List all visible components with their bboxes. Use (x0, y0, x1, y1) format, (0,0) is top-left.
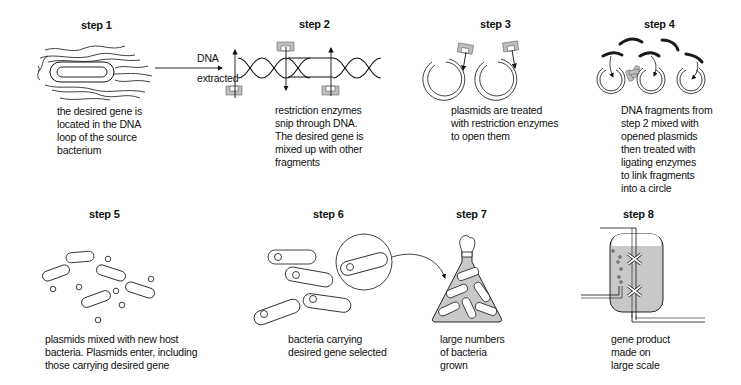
step-1-caption: the desired gene islocated in the DNA lo… (57, 105, 142, 157)
step-6-title: step 6 (313, 208, 344, 220)
step-5-caption: plasmids mixed with new hostbacteria. Pl… (45, 333, 197, 372)
step-7-title: step 7 (456, 208, 487, 220)
fermenter-icon (581, 228, 705, 322)
step-3-caption: plasmids are treatedwith restriction enz… (451, 104, 558, 143)
dna-extracted-label-line1: DNA (197, 52, 219, 64)
step-2-caption: restriction enzymessnip through DNA. The… (275, 104, 363, 169)
step-5-title: step 5 (89, 208, 120, 220)
step-6-caption: bacteria carryingdesired gene selected (288, 333, 387, 359)
host-bacteria-icon (41, 251, 156, 323)
opened-plasmid-icons (423, 41, 519, 100)
selected-bacteria-icon (252, 234, 445, 327)
restriction-enzyme-icons (226, 42, 339, 95)
step-8-title: step 8 (623, 208, 654, 220)
ligation-icon (597, 39, 705, 93)
step-2-title: step 2 (299, 18, 330, 30)
step-4-title: step 4 (644, 18, 675, 30)
step-1-title: step 1 (81, 19, 112, 31)
culture-flask-icon (432, 236, 501, 322)
step-4-caption: DNA fragments fromstep 2 mixed with open… (621, 104, 713, 195)
step-8-caption: gene productmade on large scale (611, 333, 670, 372)
dna-extracted-label-line2: extracted (197, 72, 238, 84)
step-7-caption: large numbersof bacteria grown (440, 333, 505, 372)
step-3-title: step 3 (480, 18, 511, 30)
restriction-dna-icon (238, 58, 381, 78)
source-bacterium-icon (38, 46, 152, 100)
